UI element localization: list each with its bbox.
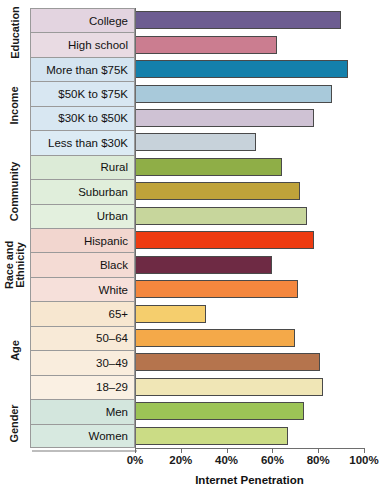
x-tick [272, 448, 273, 453]
category-label: Hispanic [84, 235, 128, 247]
bar-cell [135, 204, 370, 228]
category-label: $50K to $75K [58, 88, 128, 100]
category-label-cell: Suburban [30, 179, 135, 203]
y-axis-line [135, 8, 136, 448]
bar-cell [135, 326, 370, 350]
bar-cell [135, 399, 370, 423]
x-tick [318, 448, 319, 453]
category-label-cell: College [30, 8, 135, 32]
group-label-age: Age [0, 301, 30, 399]
bar-cell [135, 277, 370, 301]
category-label-cell: Women [30, 424, 135, 448]
x-tick-label: 100% [349, 454, 378, 466]
category-label: Rural [101, 161, 128, 173]
x-tick [181, 448, 182, 453]
category-label: $30K to $50K [58, 112, 128, 124]
category-label: More than $75K [46, 64, 128, 76]
chart-row: High school [30, 32, 370, 56]
bar-cell [135, 301, 370, 325]
chart-row: 18–29 [30, 375, 370, 399]
bar [135, 427, 288, 445]
bar [135, 329, 295, 347]
category-label: Black [100, 259, 128, 271]
category-label: 30–49 [96, 357, 128, 369]
x-tick-label: 0% [127, 454, 144, 466]
axis-base-shadow [32, 450, 137, 452]
category-label-cell: Hispanic [30, 228, 135, 252]
bar-cell [135, 375, 370, 399]
group-label-text: Age [9, 340, 20, 360]
chart-row: Less than $30K [30, 130, 370, 154]
bar-cell [135, 424, 370, 448]
group-label-text: Income [10, 87, 21, 125]
x-tick [364, 448, 365, 453]
bar [135, 207, 307, 225]
bar [135, 60, 348, 78]
bar [135, 305, 206, 323]
chart-row: Black [30, 252, 370, 276]
bar-cell [135, 252, 370, 276]
bar [135, 11, 341, 29]
category-label-cell: Rural [30, 155, 135, 179]
category-label-cell: $30K to $50K [30, 106, 135, 130]
bar [135, 133, 256, 151]
plot-area: CollegeHigh schoolMore than $75K$50K to … [30, 8, 370, 448]
chart-row: Men [30, 399, 370, 423]
chart-row: Urban [30, 204, 370, 228]
bar [135, 402, 304, 420]
chart-root: EducationIncomeCommunityRace andEthnicit… [0, 0, 386, 495]
bar [135, 353, 320, 371]
category-label-cell: Urban [30, 204, 135, 228]
chart-row: 50–64 [30, 326, 370, 350]
category-label-cell: 65+ [30, 301, 135, 325]
category-label-cell: $50K to $75K [30, 81, 135, 105]
x-tick [227, 448, 228, 453]
chart-row: Rural [30, 155, 370, 179]
bar [135, 256, 272, 274]
bar-cell [135, 57, 370, 81]
bar-cell [135, 106, 370, 130]
bar [135, 182, 300, 200]
chart-row: 65+ [30, 301, 370, 325]
category-label: 18–29 [96, 381, 128, 393]
category-label-cell: Less than $30K [30, 130, 135, 154]
bar [135, 231, 314, 249]
x-tick [135, 448, 136, 453]
bar [135, 36, 277, 54]
category-label: Urban [97, 210, 128, 222]
chart-row: College [30, 8, 370, 32]
group-label-gender: Gender [0, 399, 30, 448]
chart-row: Hispanic [30, 228, 370, 252]
category-label: Less than $30K [48, 137, 128, 149]
group-label-education: Education [0, 8, 30, 57]
group-label-text: Education [10, 6, 21, 58]
category-label-cell: Black [30, 252, 135, 276]
bar-cell [135, 350, 370, 374]
bar-cell [135, 228, 370, 252]
chart-row: White [30, 277, 370, 301]
group-label-text: Community [10, 162, 21, 222]
x-tick-label: 20% [169, 454, 192, 466]
bar [135, 158, 282, 176]
bar-cell [135, 130, 370, 154]
bar-cell [135, 8, 370, 32]
category-label: 65+ [108, 308, 128, 320]
x-tick-label: 80% [307, 454, 330, 466]
chart-row: Women [30, 424, 370, 448]
category-label-cell: Men [30, 399, 135, 423]
category-label-cell: High school [30, 32, 135, 56]
category-label: White [99, 284, 128, 296]
x-axis-title: Internet Penetration [135, 474, 364, 486]
bar [135, 109, 314, 127]
category-label-cell: 18–29 [30, 375, 135, 399]
chart-row: $50K to $75K [30, 81, 370, 105]
category-label: High school [68, 39, 128, 51]
category-label-cell: 50–64 [30, 326, 135, 350]
chart-row: Suburban [30, 179, 370, 203]
category-label: Men [106, 406, 128, 418]
bar-cell [135, 81, 370, 105]
x-axis-line [135, 448, 364, 449]
chart-row: $30K to $50K [30, 106, 370, 130]
category-label: College [89, 15, 128, 27]
chart-row: 30–49 [30, 350, 370, 374]
